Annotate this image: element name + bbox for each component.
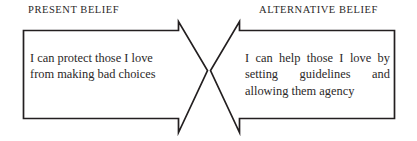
present-belief-line-3: choices — [118, 67, 155, 81]
present-belief-line-1: I can protect those I — [30, 51, 128, 65]
alternative-belief-heading: ALTERNATIVE BELIEF — [259, 3, 378, 16]
alternative-belief-line-3: allowing them agency — [245, 83, 390, 99]
present-belief-heading: PRESENT BELIEF — [28, 3, 119, 16]
alternative-belief-text: I can help those I love by setting guide… — [245, 50, 390, 99]
present-belief-text: I can protect those I love from making b… — [30, 50, 167, 83]
alternative-belief-line-1: I can help those I love by — [245, 50, 390, 66]
alternative-belief-line-2: setting guidelines and — [245, 66, 390, 82]
